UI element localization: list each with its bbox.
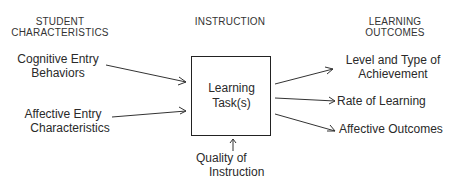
arrow-task-to-achievement <box>275 67 333 84</box>
arrows-layer <box>0 0 460 186</box>
arrow-cognitive-to-task <box>106 65 186 85</box>
arrow-quality-to-task <box>230 139 236 151</box>
arrow-task-to-rate <box>275 97 335 104</box>
arrow-affective-to-task <box>112 107 186 117</box>
arrow-task-to-affective-outcomes <box>275 114 335 131</box>
